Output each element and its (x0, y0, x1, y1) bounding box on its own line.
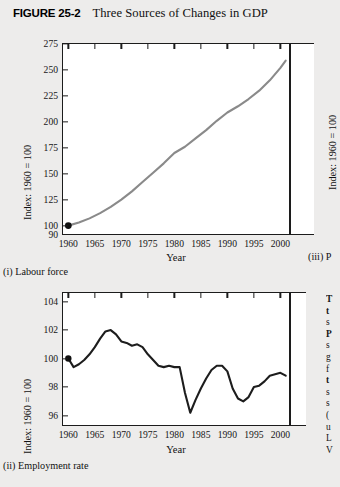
y-tick-mark (63, 301, 68, 302)
chart2-x-axis-label: Year (166, 444, 185, 455)
y-tick-label: 98 (48, 382, 63, 392)
x-tick-mark (147, 293, 148, 298)
x-tick-mark (68, 293, 69, 298)
side-paragraph-line: u (326, 422, 340, 434)
y-tick-label: 125 (44, 195, 63, 205)
x-tick-label: 1985 (191, 430, 210, 440)
x-tick-label: 1980 (165, 239, 184, 249)
chart3-caption: (iii) P (308, 251, 332, 262)
y-tick-mark (63, 225, 68, 226)
y-tick-mark (63, 121, 68, 122)
x-tick-mark (174, 44, 175, 49)
x-tick-mark (200, 44, 201, 49)
x-tick-label: 2000 (271, 430, 290, 440)
chart2-y-axis-label: Index: 1960 = 100 (22, 379, 33, 454)
x-tick-label: 1970 (112, 239, 131, 249)
x-tick-mark (174, 293, 175, 298)
x-tick-mark (94, 293, 95, 298)
x-tick-label: 1975 (138, 239, 157, 249)
x-tick-label: 1965 (85, 430, 104, 440)
chart1-y-axis-label: Index: 1960 = 100 (22, 145, 33, 220)
side-paragraph-cropped: TtsPsgftss(uLV (326, 294, 340, 454)
y-tick-mark (63, 147, 68, 148)
chart2-caption: (ii) Employment rate (3, 460, 88, 471)
side-paragraph-line: s (326, 398, 340, 410)
chart2-line-series (63, 293, 291, 427)
x-tick-label: 1995 (244, 430, 263, 440)
chart1-plot-area: 2752502252001751501251009019601965197019… (62, 43, 290, 235)
y-tick-label: 150 (44, 169, 63, 179)
x-tick-label: 1960 (59, 239, 78, 249)
x-tick-mark (227, 293, 228, 298)
side-paragraph-line: V (326, 445, 340, 454)
figure-number: FIGURE 25-2 (13, 7, 80, 19)
x-tick-mark (121, 44, 122, 49)
y-tick-label: 225 (44, 91, 63, 101)
y-tick-label: 200 (44, 117, 63, 127)
x-tick-mark (68, 44, 69, 49)
x-tick-label: 1975 (138, 430, 157, 440)
x-tick-mark (280, 44, 281, 49)
side-paragraph-line: t (326, 375, 340, 387)
x-tick-mark (227, 44, 228, 49)
side-paragraph-line: ( (326, 410, 340, 422)
chart-labour-force: Index: 1960 = 100 2752502252001751501251… (0, 30, 300, 262)
x-tick-mark (200, 293, 201, 298)
x-tick-label: 1990 (218, 430, 237, 440)
y-tick-label: 104 (44, 297, 63, 307)
x-tick-mark (94, 44, 95, 49)
chart-employment-rate: Index: 1960 = 100 1041021009896196019651… (0, 288, 300, 487)
side-paragraph-line: s (326, 387, 340, 399)
y-tick-mark (63, 329, 68, 330)
x-tick-mark (253, 293, 254, 298)
figure-title: Three Sources of Changes in GDP (92, 6, 267, 21)
x-tick-label: 1960 (59, 430, 78, 440)
x-tick-label: 1965 (85, 239, 104, 249)
chart1-caption: (i) Labour force (3, 266, 68, 277)
y-tick-label: 100 (44, 354, 63, 364)
x-tick-label: 2000 (271, 239, 290, 249)
y-tick-mark (63, 199, 68, 200)
chart4-plot-area-cropped (290, 292, 306, 426)
chart1-line-series (63, 44, 291, 236)
y-tick-label: 275 (44, 39, 63, 49)
y-tick-mark (63, 69, 68, 70)
x-tick-label: 1990 (218, 239, 237, 249)
chart1-x-axis-label: Year (166, 252, 185, 263)
side-paragraph-line: L (326, 433, 340, 445)
x-tick-label: 1995 (244, 239, 263, 249)
y-tick-label: 175 (44, 143, 63, 153)
side-paragraph-line: s (326, 340, 340, 352)
x-tick-mark (280, 293, 281, 298)
y-tick-mark (63, 415, 68, 416)
figure-page: FIGURE 25-2 Three Sources of Changes in … (0, 0, 340, 487)
chart2-plot-area: 1041021009896196019651970197519801985199… (62, 292, 290, 426)
x-tick-label: 1970 (112, 430, 131, 440)
side-paragraph-line: P (326, 329, 340, 341)
y-tick-mark (63, 386, 68, 387)
x-tick-mark (147, 44, 148, 49)
y-tick-label: 96 (48, 411, 63, 421)
y-tick-label: 102 (44, 325, 63, 335)
y-tick-mark (63, 358, 68, 359)
y-tick-mark (63, 173, 68, 174)
x-tick-mark (121, 293, 122, 298)
cropped-right-column: Index: 1960 = 100 (iii) P TtsPsgftss(uLV (294, 0, 340, 487)
chart3-plot-area-cropped (290, 43, 314, 235)
x-tick-mark (253, 44, 254, 49)
side-paragraph-line: f (326, 364, 340, 376)
side-paragraph-line: s (326, 317, 340, 329)
side-paragraph-line: g (326, 352, 340, 364)
side-paragraph-line: T (326, 294, 340, 306)
y-tick-label: 250 (44, 65, 63, 75)
x-tick-label: 1980 (165, 430, 184, 440)
y-tick-mark (63, 95, 68, 96)
chart3-y-axis-label: Index: 1960 = 100 (327, 115, 338, 190)
x-tick-label: 1985 (191, 239, 210, 249)
figure-header: FIGURE 25-2 Three Sources of Changes in … (0, 0, 340, 26)
side-paragraph-line: t (326, 306, 340, 318)
